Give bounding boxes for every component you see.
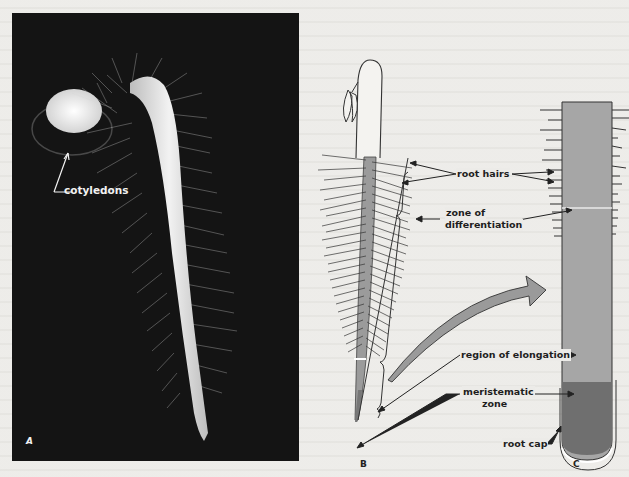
root-hairs-label: root hairs: [456, 168, 510, 180]
cotyledons-label: cotyledons: [64, 184, 128, 196]
region-of-elongation-label: region of elongation: [460, 349, 571, 361]
panel-bc-diagram: root hairs zone of differentiation regio…: [300, 0, 629, 477]
zone-of-differentiation-label-line2: differentiation: [444, 219, 523, 231]
meristematic-zone-label-line2: zone: [481, 398, 508, 410]
meristematic-zone-label-line1: meristematic: [462, 386, 535, 398]
zone-of-differentiation-label-line1: zone of: [445, 207, 486, 219]
panel-a-label: A: [26, 436, 33, 446]
panel-a-photograph: cotyledons A: [12, 13, 299, 461]
seedling-photo-illustration: [12, 13, 299, 461]
root-cap-label: root cap: [502, 438, 548, 450]
panel-b-label: B: [360, 459, 367, 469]
panel-c-label: C: [573, 459, 580, 469]
root-zones-illustration: [300, 0, 629, 477]
